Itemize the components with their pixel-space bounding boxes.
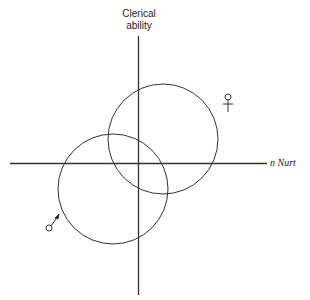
diagram-canvas bbox=[0, 0, 310, 300]
male-distribution-circle bbox=[58, 134, 168, 244]
female-distribution-circle bbox=[108, 84, 218, 194]
male-symbol-icon bbox=[46, 214, 59, 231]
female-symbol-icon bbox=[223, 94, 233, 112]
